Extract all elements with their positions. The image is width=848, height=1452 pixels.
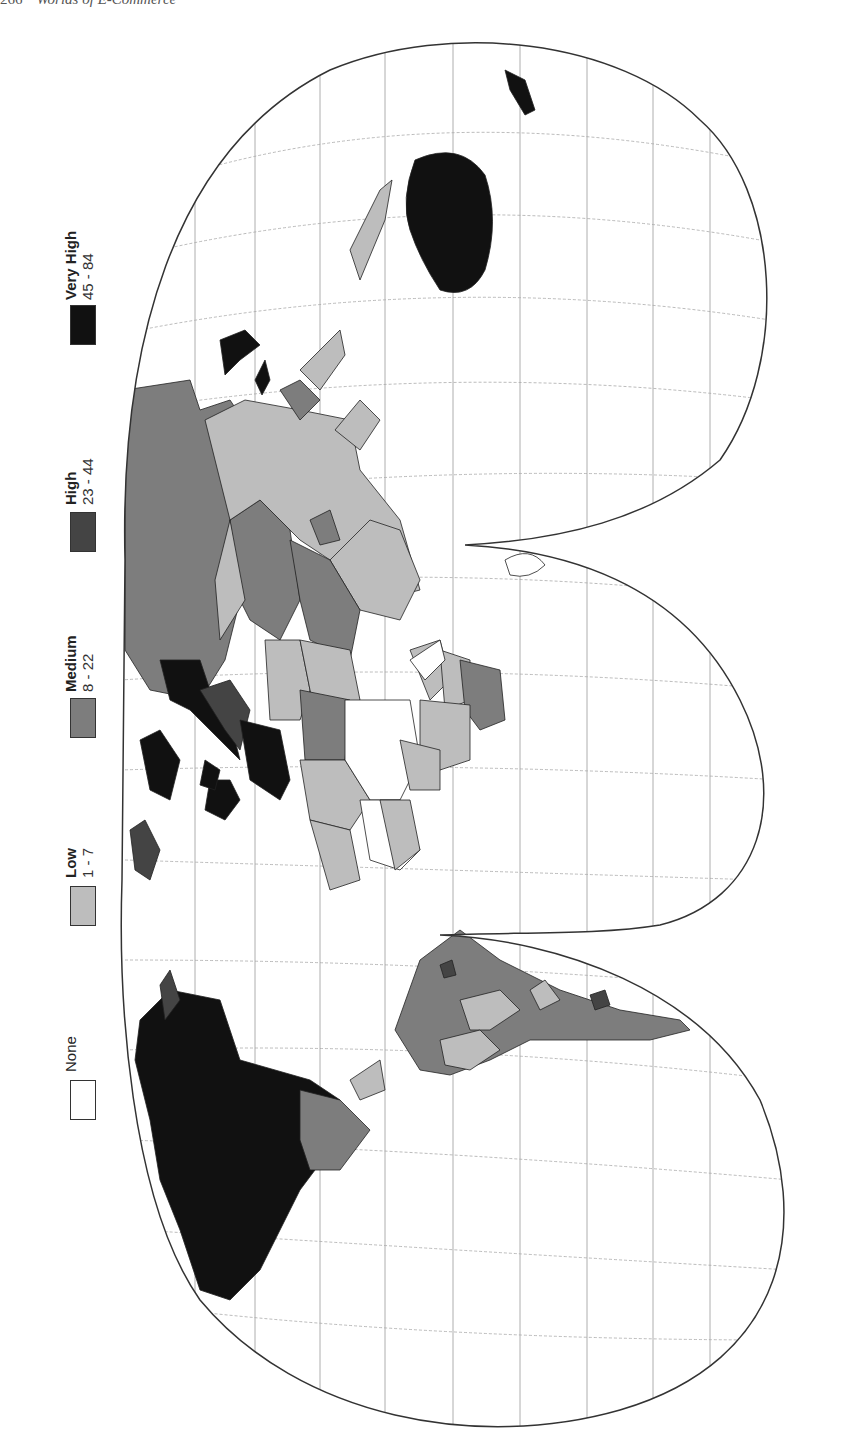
- world-map: [0, 0, 848, 1452]
- countries: [125, 70, 690, 1300]
- map-graticule: [120, 30, 790, 1440]
